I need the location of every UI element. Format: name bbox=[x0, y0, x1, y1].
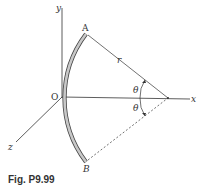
dashed-radius-line bbox=[88, 98, 168, 160]
figure-caption: Fig. P9.99 bbox=[8, 174, 55, 185]
radius-label: r bbox=[117, 55, 122, 65]
figure-diagram: y x z O A B r θ θ bbox=[0, 0, 205, 187]
x-axis-label: x bbox=[191, 94, 196, 104]
radius-line bbox=[88, 35, 168, 98]
curved-rod-fill bbox=[64, 34, 86, 162]
x-axis bbox=[62, 97, 190, 99]
point-b-label: B bbox=[82, 164, 90, 174]
center-point bbox=[167, 97, 169, 99]
y-axis-label: y bbox=[55, 3, 62, 13]
origin-label: O bbox=[51, 92, 58, 102]
angle-lower-label: θ bbox=[133, 103, 139, 113]
angle-upper-label: θ bbox=[133, 85, 139, 95]
z-axis bbox=[16, 97, 62, 142]
point-a-label: A bbox=[81, 23, 89, 33]
z-axis-label: z bbox=[7, 142, 13, 152]
